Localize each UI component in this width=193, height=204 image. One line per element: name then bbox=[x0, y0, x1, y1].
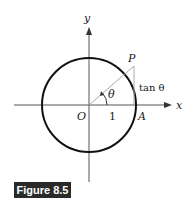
y-axis-arrow-icon bbox=[86, 27, 92, 35]
unit-circle-diagram: y x O 1 A P θ tan θ bbox=[0, 0, 193, 204]
y-axis-label: y bbox=[83, 12, 91, 25]
radius-label: 1 bbox=[109, 110, 116, 123]
x-axis-label: x bbox=[176, 99, 183, 112]
origin-label: O bbox=[77, 110, 86, 123]
angle-label: θ bbox=[108, 88, 115, 101]
tangent-label: tan θ bbox=[139, 82, 165, 93]
x-axis-arrow-icon bbox=[164, 102, 172, 108]
point-a-label: A bbox=[137, 110, 146, 123]
figure-caption: Figure 8.5 bbox=[14, 182, 71, 198]
point-p-label: P bbox=[127, 52, 136, 65]
